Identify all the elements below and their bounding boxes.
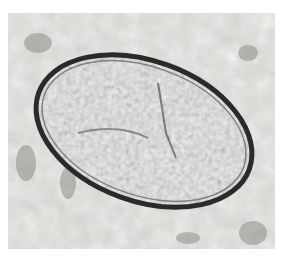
- micrograph-svg: [8, 13, 275, 249]
- micrograph: [8, 13, 275, 249]
